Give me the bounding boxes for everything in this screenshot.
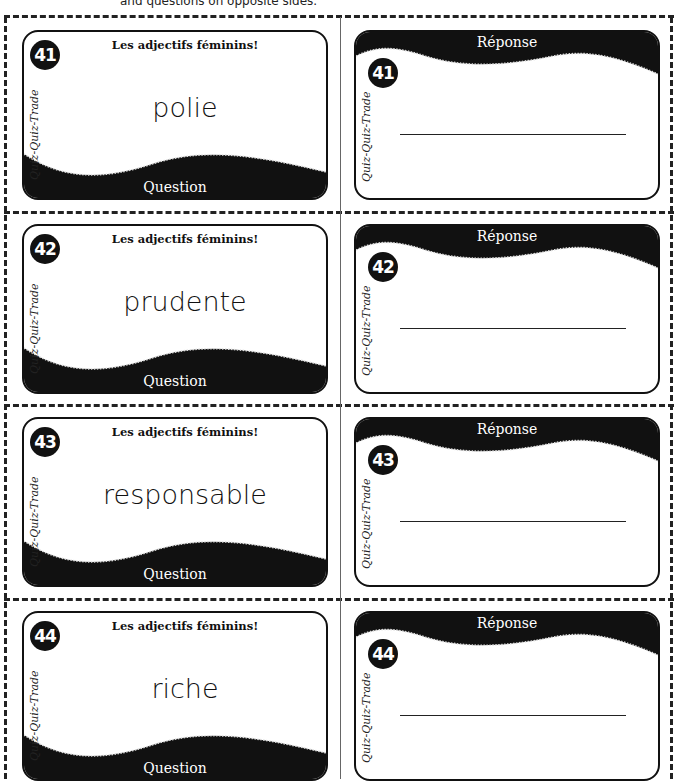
brand-side-label: Quiz-Quiz-Trade [360,285,373,376]
question-card: 41 Quiz-Quiz-Trade Les adjectifs féminin… [22,30,328,200]
question-title: Les adjectifs féminins! [24,619,326,633]
brand-side-label: Quiz-Quiz-Trade [28,89,41,180]
question-band-label: Question [24,373,326,389]
brand-side-label: Quiz-Quiz-Trade [360,91,373,182]
brand-side-label: Quiz-Quiz-Trade [28,476,41,567]
answer-write-line[interactable] [400,715,626,716]
fold-line [340,17,341,779]
brand-side-label: Quiz-Quiz-Trade [360,672,373,763]
question-card: 42 Quiz-Quiz-Trade Les adjectifs féminin… [22,224,328,394]
cut-line [4,211,674,214]
brand-side-label: Quiz-Quiz-Trade [28,283,41,374]
cut-line [4,598,674,601]
brand-side-label: Quiz-Quiz-Trade [360,478,373,569]
question-band-label: Question [24,566,326,582]
question-title: Les adjectifs féminins! [24,38,326,52]
answer-band-label: Réponse [356,34,658,50]
answer-card: Réponse 41 Quiz-Quiz-Trade [354,30,660,200]
answer-band-label: Réponse [356,421,658,437]
cut-line [4,404,674,407]
question-card: 44 Quiz-Quiz-Trade Les adjectifs féminin… [22,611,328,781]
question-card: 43 Quiz-Quiz-Trade Les adjectifs féminin… [22,417,328,587]
cut-line [670,17,673,779]
question-word: riche [44,673,326,704]
cut-line [4,17,7,779]
instruction-note: and questions on opposite sides. [0,0,678,8]
answer-write-line[interactable] [400,134,626,135]
question-band-label: Question [24,179,326,195]
answer-card: Réponse 42 Quiz-Quiz-Trade [354,224,660,394]
card-number: 41 [372,63,394,83]
card-number-badge: 42 [368,252,398,282]
question-band-label: Question [24,760,326,776]
answer-write-line[interactable] [400,521,626,522]
brand-side-label: Quiz-Quiz-Trade [28,670,41,761]
answer-card: Réponse 44 Quiz-Quiz-Trade [354,611,660,781]
question-title: Les adjectifs féminins! [24,425,326,439]
question-word: responsable [44,479,326,510]
question-title: Les adjectifs féminins! [24,232,326,246]
question-word: polie [44,92,326,123]
card-number-badge: 44 [368,639,398,669]
answer-band-label: Réponse [356,228,658,244]
answer-write-line[interactable] [400,328,626,329]
card-number: 42 [372,257,394,277]
answer-card: Réponse 43 Quiz-Quiz-Trade [354,417,660,587]
card-number-badge: 41 [368,58,398,88]
cut-line [4,15,674,18]
card-number: 43 [372,450,394,470]
card-number-badge: 43 [368,445,398,475]
answer-band-label: Réponse [356,615,658,631]
card-number: 44 [372,644,394,664]
question-word: prudente [44,286,326,317]
